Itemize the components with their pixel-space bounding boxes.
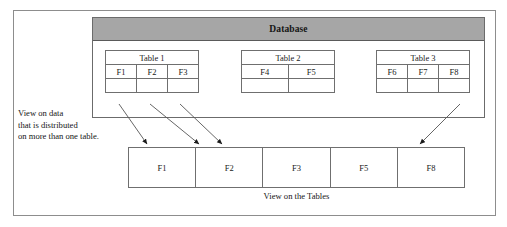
table-2-title: Table 2 [242,51,334,65]
table-3-field-row: F6 F7 F8 [377,65,469,79]
table-2-field-row: F4 F5 [242,65,334,79]
table-1-empty-cell-3 [168,79,198,92]
view-table: F1 F2 F3 F5 F8 [128,147,465,188]
table-1-field-f2: F2 [137,65,168,78]
table-3-empty-row [377,79,469,92]
table-1: Table 1 F1 F2 F3 [105,50,199,93]
table-3: Table 3 F6 F7 F8 [376,50,470,93]
table-3-empty-cell-2 [408,79,439,92]
table-1-field-f1: F1 [106,65,137,78]
table-2-empty-cell-2 [289,79,335,92]
table-2: Table 2 F4 F5 [241,50,335,93]
view-cell-f3: F3 [263,148,330,187]
table-3-empty-cell-3 [439,79,469,92]
table-3-field-f6: F6 [377,65,408,78]
table-2-empty-cell-1 [242,79,289,92]
table-1-field-row: F1 F2 F3 [106,65,198,79]
view-cell-f8: F8 [398,148,464,187]
table-1-empty-cell-2 [137,79,168,92]
view-cell-f2: F2 [196,148,263,187]
table-3-empty-cell-1 [377,79,408,92]
diagram-canvas: Database Table 1 F1 F2 F3 Table 2 F4 F5 [0,0,507,227]
table-2-field-f5: F5 [289,65,335,78]
caption-line-2: that is distributed [18,120,128,132]
view-table-caption: View on the Tables [128,191,465,201]
table-1-empty-cell-1 [106,79,137,92]
database-title: Database [93,18,484,41]
view-explanation-caption: View on data that is distributed on more… [18,108,128,143]
table-1-title: Table 1 [106,51,198,65]
table-1-field-f3: F3 [168,65,198,78]
view-cell-f5: F5 [331,148,398,187]
table-3-field-f8: F8 [439,65,469,78]
caption-line-1: View on data [18,108,128,120]
table-3-field-f7: F7 [408,65,439,78]
caption-line-3: on more than one table. [18,131,128,143]
table-2-field-f4: F4 [242,65,289,78]
view-cell-f1: F1 [129,148,196,187]
table-2-empty-row [242,79,334,92]
database-container: Database Table 1 F1 F2 F3 Table 2 F4 F5 [92,17,485,118]
table-1-empty-row [106,79,198,92]
table-3-title: Table 3 [377,51,469,65]
